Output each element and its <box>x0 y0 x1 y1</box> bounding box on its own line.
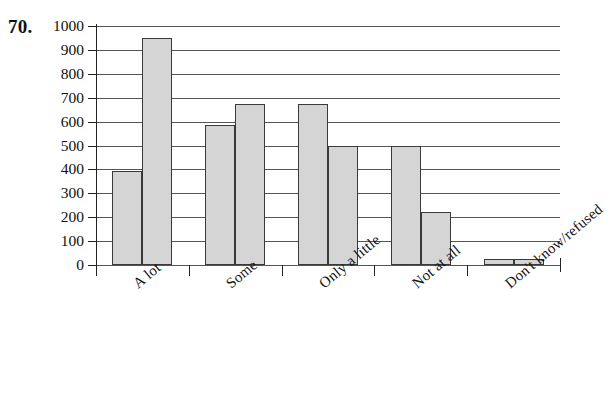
y-axis-tick-label: 100 <box>28 233 84 249</box>
bar <box>205 125 235 265</box>
right-axis-line <box>560 258 561 272</box>
plot-area <box>96 26 560 265</box>
bar <box>235 104 265 265</box>
x-axis-tick <box>374 265 375 276</box>
bar <box>142 38 172 265</box>
y-axis-tick-label: 700 <box>28 90 84 106</box>
x-axis-tick <box>96 265 97 276</box>
bar <box>391 146 421 266</box>
bar <box>112 171 142 265</box>
y-axis-tick-label: 300 <box>28 185 84 201</box>
y-axis-tick-label: 400 <box>28 161 84 177</box>
y-axis-tick-label: 0 <box>28 257 84 273</box>
y-axis-tick-label: 500 <box>28 138 84 154</box>
y-axis-tick-label: 800 <box>28 66 84 82</box>
x-axis-tick <box>282 265 283 276</box>
y-axis-tick-label: 200 <box>28 209 84 225</box>
y-axis-tick-label: 600 <box>28 114 84 130</box>
gridline <box>96 265 560 266</box>
bar <box>484 259 514 265</box>
y-axis-labels: 10009008007006005004003002001000 <box>22 0 84 401</box>
bar <box>298 104 328 265</box>
x-axis-tick <box>467 265 468 276</box>
x-axis-tick <box>189 265 190 276</box>
y-axis-tick-label: 900 <box>28 42 84 58</box>
y-axis-tick-label: 1000 <box>28 18 84 34</box>
